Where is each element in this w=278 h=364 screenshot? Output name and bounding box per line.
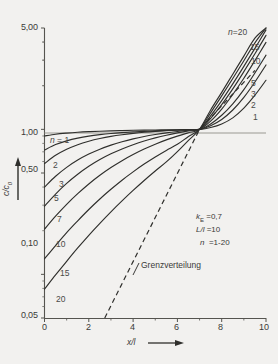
curve-label-right-10: 10 xyxy=(251,57,260,66)
curve-label-right-20: n=20 xyxy=(228,28,247,37)
legend-param-ke: kE =0,7 xyxy=(196,213,222,223)
x-tick-label-2: 2 xyxy=(86,323,91,332)
y-tick-label-050: 0,50 xyxy=(21,165,38,174)
chart-figure xyxy=(0,0,278,364)
curve-label-left-20: 20 xyxy=(56,295,65,304)
curve-label-left-1: n = 1 xyxy=(50,136,69,145)
x-tick-label-6: 6 xyxy=(174,323,179,332)
legend-param-n: n =1-20 xyxy=(200,239,230,247)
legend-param-ll: L/l =10 xyxy=(196,226,220,234)
y-axis-title: c/c0 xyxy=(2,182,13,196)
curve-label-left-3: 3 xyxy=(59,180,64,189)
curve-label-left-7: 7 xyxy=(57,215,62,224)
grenzverteilung-label: Grenzverteilung xyxy=(141,261,201,270)
curve-label-right-2: 2 xyxy=(251,101,256,110)
x-tick-label-8: 8 xyxy=(218,323,223,332)
curve-label-right-1: 1 xyxy=(253,113,258,122)
y-tick-label-500: 5,00 xyxy=(21,23,38,32)
x-tick-label-4: 4 xyxy=(130,323,135,332)
chart-background xyxy=(0,0,278,364)
curve-label-left-10: 10 xyxy=(56,240,65,249)
curve-label-left-15: 15 xyxy=(60,269,69,278)
x-tick-label-0: 0 xyxy=(42,323,47,332)
x-axis-title: x/l xyxy=(127,338,136,347)
y-tick-label-010: 0,10 xyxy=(21,239,38,248)
y-tick-label-100: 1,00 xyxy=(21,128,38,137)
curve-label-right-15: 15 xyxy=(250,43,259,52)
curve-label-left-2: 2 xyxy=(53,161,58,170)
curve-label-right-5: 5 xyxy=(251,79,256,88)
curve-label-left-5: 5 xyxy=(54,194,59,203)
curve-label-right-3: 3 xyxy=(251,90,256,99)
x-tick-label-10: 10 xyxy=(259,323,269,332)
y-tick-label-005: 0,05 xyxy=(21,311,38,320)
